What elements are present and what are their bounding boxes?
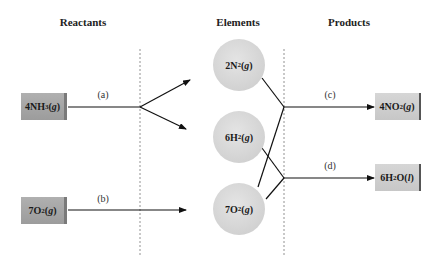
step-label-c: (c) — [324, 89, 335, 100]
formula: H — [230, 132, 238, 143]
phase: l — [408, 172, 411, 183]
subscript: 2 — [238, 205, 242, 213]
formula: N — [230, 60, 237, 71]
phase: g — [48, 205, 53, 216]
subscript: 2 — [41, 207, 45, 215]
formula-part-2: O — [397, 172, 405, 183]
step-label-a: (a) — [97, 89, 108, 100]
phase: g — [406, 101, 411, 112]
step-label-b: (b) — [97, 193, 109, 204]
product-box-no2: 4NO2(g) — [375, 93, 421, 120]
formula: NO — [384, 101, 399, 112]
formula: NH — [30, 101, 45, 112]
phase: g — [245, 132, 250, 143]
step-label-d: (d) — [324, 160, 336, 171]
formula: O — [34, 205, 42, 216]
element-circle-h2: 6H2(g) — [213, 111, 265, 163]
formula: H — [385, 172, 393, 183]
reactant-box-nh3: 4NH3(g) — [21, 93, 67, 120]
phase: g — [245, 204, 250, 215]
subscript: 3 — [45, 103, 49, 111]
reactant-box-o2: 7O2(g) — [21, 197, 67, 224]
product-box-h2o: 6H2O(l) — [375, 164, 421, 191]
phase: g — [52, 101, 57, 112]
subscript: 2 — [238, 133, 242, 141]
subscript: 2 — [238, 61, 242, 69]
phase: g — [244, 60, 249, 71]
subscript: 2 — [399, 103, 403, 111]
element-circle-n2: 2N2(g) — [213, 39, 265, 91]
formula: O — [230, 204, 238, 215]
element-circle-o2: 7O2(g) — [213, 183, 265, 235]
